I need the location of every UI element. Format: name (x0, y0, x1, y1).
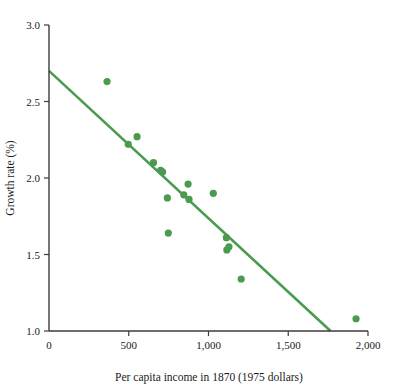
y-tick-label: 1.5 (26, 249, 40, 261)
chart-canvas: 1.01.52.02.53.0 05001,0001,5002,000 Per … (0, 0, 397, 392)
data-point (238, 275, 245, 282)
data-point (184, 181, 191, 188)
data-point (210, 190, 217, 197)
data-point (223, 234, 230, 241)
x-axis-title: Per capita income in 1870 (1975 dollars) (115, 371, 303, 384)
data-point (165, 229, 172, 236)
data-point (150, 159, 157, 166)
axes-group (49, 25, 368, 331)
y-tick-label: 1.0 (26, 325, 40, 337)
x-axis-ticks: 05001,0001,5002,000 (46, 331, 381, 351)
x-tick-label: 2,000 (356, 339, 381, 351)
data-point (125, 141, 132, 148)
data-point (164, 194, 171, 201)
y-tick-label: 2.0 (26, 172, 40, 184)
data-point (103, 78, 110, 85)
x-tick-label: 1,500 (276, 339, 301, 351)
data-point (225, 243, 232, 250)
x-tick-label: 500 (121, 339, 138, 351)
y-axis-title: Growth rate (%) (4, 140, 17, 216)
data-point (185, 196, 192, 203)
y-tick-label: 2.5 (26, 96, 40, 108)
y-axis-ticks: 1.01.52.02.53.0 (26, 19, 49, 337)
data-point (159, 168, 166, 175)
data-points-group (103, 78, 359, 322)
x-tick-label: 1,000 (196, 339, 221, 351)
scatter-chart-figure: 1.01.52.02.53.0 05001,0001,5002,000 Per … (0, 0, 397, 392)
y-tick-label: 3.0 (26, 19, 40, 31)
data-point (133, 133, 140, 140)
x-tick-label: 0 (46, 339, 52, 351)
data-point (352, 315, 359, 322)
